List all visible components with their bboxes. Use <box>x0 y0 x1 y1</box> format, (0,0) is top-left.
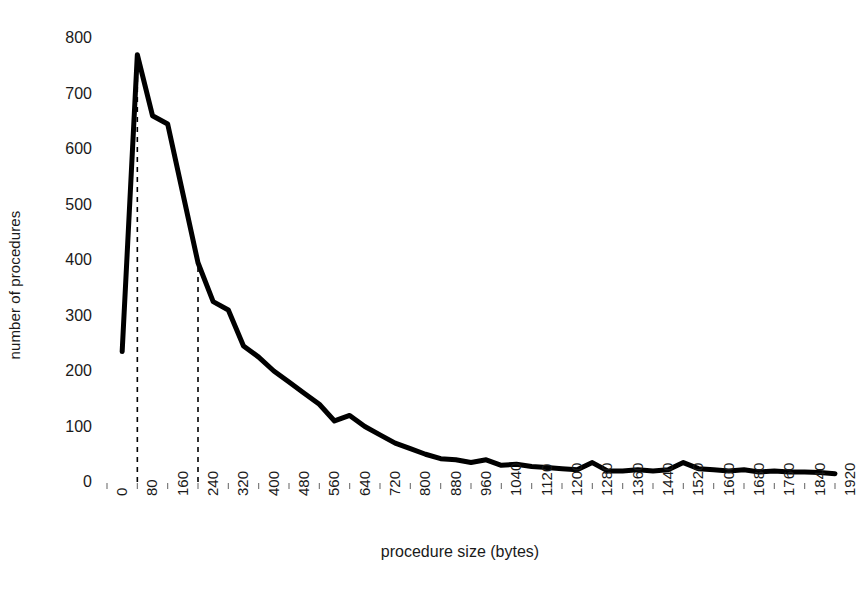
y-tick-label: 400 <box>40 252 92 268</box>
x-tick-label: 800 <box>417 471 432 496</box>
x-tick-label: 1600 <box>721 463 736 496</box>
x-tick-label: 80 <box>144 479 159 496</box>
x-axis-title: procedure size (bytes) <box>260 543 660 561</box>
y-tick-label: 100 <box>40 419 92 435</box>
y-axis-title: number of procedures <box>6 170 23 400</box>
x-tick-label: 1760 <box>781 463 796 496</box>
x-tick-label: 160 <box>175 471 190 496</box>
x-tick-label: 720 <box>387 471 402 496</box>
x-tick-label: 1520 <box>690 463 705 496</box>
y-tick-label: 300 <box>40 308 92 324</box>
x-tick-label: 960 <box>478 471 493 496</box>
y-tick-label: 0 <box>40 474 92 490</box>
x-tick-label: 640 <box>357 471 372 496</box>
x-tick-label: 1200 <box>569 463 584 496</box>
x-tick-label: 1920 <box>842 463 857 496</box>
x-tick-label: 240 <box>205 471 220 496</box>
x-tick-label: 1840 <box>812 463 827 496</box>
x-tick-label: 560 <box>326 471 341 496</box>
x-tick-label: 480 <box>296 471 311 496</box>
x-tick-label: 1280 <box>599 463 614 496</box>
x-tick-label: 400 <box>266 471 281 496</box>
y-tick-label: 700 <box>40 86 92 102</box>
x-tick-label: 320 <box>235 471 250 496</box>
x-tick-label: 880 <box>448 471 463 496</box>
y-tick-label: 200 <box>40 363 92 379</box>
x-tick-label: 1360 <box>630 463 645 496</box>
chart-figure: number of procedures procedure size (byt… <box>0 0 862 590</box>
x-tick-label: 1440 <box>660 463 675 496</box>
y-tick-label: 800 <box>40 30 92 46</box>
data-series-line <box>122 55 835 474</box>
y-tick-label: 600 <box>40 141 92 157</box>
annotation-guides <box>137 55 198 482</box>
y-tick-label: 500 <box>40 197 92 213</box>
x-tick-label: 1120 <box>539 464 554 496</box>
plot-area <box>0 0 862 590</box>
x-tick-label: 1680 <box>751 463 766 496</box>
x-tick-label: 1040 <box>508 463 523 496</box>
x-tick-label: 0 <box>114 488 129 496</box>
